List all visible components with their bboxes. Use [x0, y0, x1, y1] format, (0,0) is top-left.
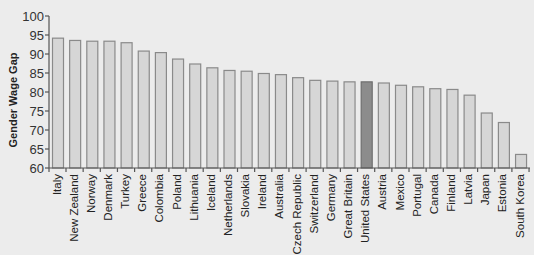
bar-turkey: [121, 43, 132, 168]
y-tick-label: 80: [0, 86, 44, 99]
bar-great-britain: [344, 82, 355, 168]
bar-netherlands: [224, 70, 235, 168]
bar-switzerland: [310, 80, 321, 168]
y-tick-label: 100: [0, 10, 44, 23]
bar-iceland: [207, 68, 218, 168]
bar-mexico: [396, 85, 407, 168]
bar-denmark: [104, 41, 115, 168]
bar-new-zealand: [70, 40, 81, 168]
bar-poland: [173, 59, 184, 168]
y-tick-label: 60: [0, 162, 44, 175]
x-tick-label: Czech Republic: [292, 174, 304, 255]
bar-portugal: [413, 87, 424, 168]
x-tick-label: Japan: [480, 174, 492, 205]
y-tick-label: 90: [0, 48, 44, 61]
bar-italy: [53, 38, 64, 168]
bar-estonia: [498, 123, 509, 168]
bar-lithuania: [190, 64, 201, 168]
bar-colombia: [155, 53, 166, 168]
x-tick-label: Great Britain: [343, 174, 355, 239]
x-tick-label: South Korea: [515, 174, 527, 238]
x-tick-label: Switzerland: [309, 174, 321, 233]
x-tick-label: Finland: [446, 174, 458, 212]
bar-australia: [275, 75, 286, 168]
y-tick-label: 75: [0, 105, 44, 118]
bar-latvia: [464, 95, 475, 168]
bar-canada: [430, 89, 441, 168]
x-tick-label: Mexico: [395, 174, 407, 210]
x-tick-label: Ireland: [257, 174, 269, 209]
x-tick-label: Colombia: [154, 174, 166, 223]
x-tick-label: Latvia: [463, 174, 475, 205]
bar-greece: [138, 51, 149, 168]
y-tick-label: 85: [0, 67, 44, 80]
x-tick-label: Australia: [274, 174, 286, 219]
bar-finland: [447, 89, 458, 168]
y-tick-label: 70: [0, 124, 44, 137]
x-tick-label: Canada: [429, 174, 441, 214]
gender-wage-gap-bar-chart: Gender Wage Gap 6065707580859095100 Ital…: [0, 0, 534, 255]
x-tick-label: Estonia: [497, 174, 509, 212]
x-tick-label: New Zealand: [69, 174, 81, 242]
x-tick-label: Italy: [52, 174, 64, 195]
x-tick-label: Denmark: [103, 174, 115, 221]
x-tick-label: Austria: [377, 174, 389, 210]
x-tick-label: Greece: [137, 174, 149, 212]
x-tick-label: Norway: [86, 174, 98, 213]
bar-slovakia: [241, 71, 252, 168]
x-tick-label: United States: [360, 174, 372, 243]
y-tick-label: 65: [0, 143, 44, 156]
x-tick-label: Netherlands: [223, 174, 235, 236]
x-tick-label: Iceland: [206, 174, 218, 211]
x-tick-label: Portugal: [412, 174, 424, 217]
bar-norway: [87, 41, 98, 168]
x-tick-label: Germany: [326, 174, 338, 221]
bar-south-korea: [516, 154, 527, 168]
x-tick-label: Lithuania: [189, 174, 201, 221]
x-tick-label: Poland: [172, 174, 184, 210]
x-tick-label: Turkey: [120, 174, 132, 209]
bar-united-states: [361, 82, 372, 168]
x-tick-label: Slovakia: [240, 174, 252, 217]
bar-austria: [378, 83, 389, 168]
bar-ireland: [258, 74, 269, 169]
bar-japan: [481, 113, 492, 168]
bar-germany: [327, 81, 338, 168]
y-tick-label: 95: [0, 29, 44, 42]
bar-czech-republic: [293, 78, 304, 168]
